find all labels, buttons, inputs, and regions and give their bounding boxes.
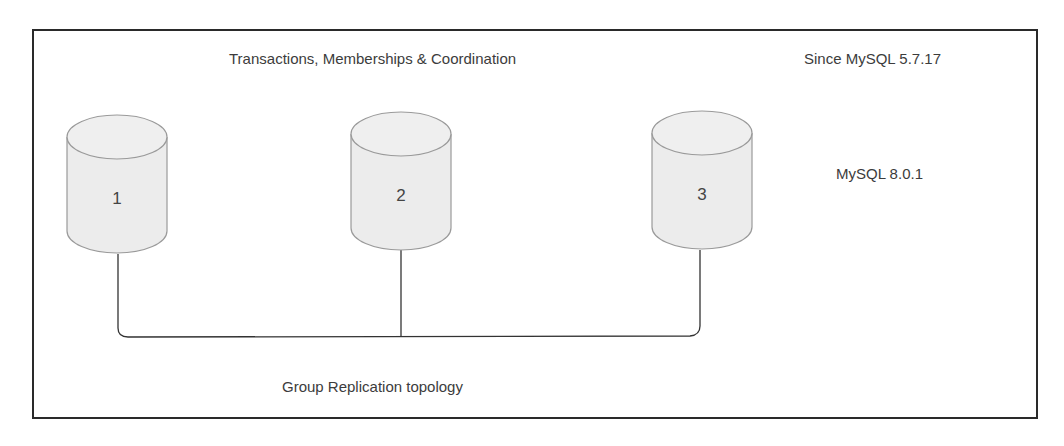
database-node-2[interactable]: 2 [349, 110, 453, 252]
database-node-3[interactable]: 3 [650, 109, 754, 251]
node-number: 2 [349, 186, 453, 206]
database-node-1[interactable]: 1 [65, 113, 169, 255]
database-cylinder-icon [349, 110, 453, 252]
node-number: 1 [65, 189, 169, 209]
node-number: 3 [650, 185, 754, 205]
database-cylinder-icon [650, 109, 754, 251]
database-cylinder-icon [65, 113, 169, 255]
